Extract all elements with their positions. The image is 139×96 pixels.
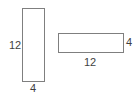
landscape-rectangle [58, 33, 124, 53]
landscape-rectangle-width-label: 12 [84, 57, 96, 68]
portrait-rectangle [22, 8, 45, 82]
portrait-rectangle-height-label: 12 [9, 40, 21, 51]
landscape-rectangle-height-label: 4 [126, 37, 132, 48]
portrait-rectangle-width-label: 4 [30, 83, 36, 94]
geometry-figure: 12 4 4 12 [0, 0, 139, 96]
